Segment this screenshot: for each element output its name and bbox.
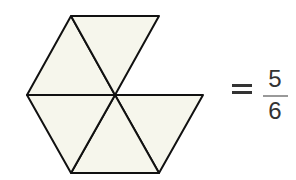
fraction-denominator: 6 xyxy=(262,98,288,124)
fraction-numerator: 5 xyxy=(262,66,288,92)
equals-sign xyxy=(232,82,254,96)
equals-bar-bottom xyxy=(232,91,252,94)
fraction: 5 6 xyxy=(262,66,292,126)
equals-bar-top xyxy=(232,84,252,87)
